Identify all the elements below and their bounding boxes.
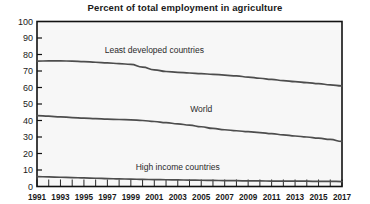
x-tick-label: 2007 xyxy=(216,193,235,202)
x-tick-label: 1995 xyxy=(75,193,94,202)
x-tick-label: 2017 xyxy=(333,193,352,202)
chart-figure: Percent of total employment in agricultu… xyxy=(0,0,370,204)
line-chart-plot: 0102030405060708090100 19911993199519971… xyxy=(0,0,370,204)
y-tick-label: 100 xyxy=(18,17,33,27)
x-tick-label: 1991 xyxy=(28,193,47,202)
y-tick-label: 60 xyxy=(23,83,33,93)
x-tick-label: 2001 xyxy=(145,193,164,202)
x-tick-label: 2011 xyxy=(263,193,281,202)
y-axis-labels: 0102030405060708090100 xyxy=(18,17,33,192)
x-tick-label: 2013 xyxy=(286,193,305,202)
x-tick-label: 1993 xyxy=(51,193,70,202)
series-label-0: Least developed countries xyxy=(105,45,204,55)
y-tick-label: 20 xyxy=(23,149,33,159)
y-tick-label: 10 xyxy=(23,165,33,175)
x-axis-labels: 1991199319951997199920012003200520072009… xyxy=(28,193,352,202)
series-label-2: High income countries xyxy=(136,162,220,172)
y-tick-label: 30 xyxy=(23,132,33,142)
y-tick-label: 70 xyxy=(23,66,33,76)
x-tick-label: 1999 xyxy=(122,193,141,202)
x-tick-label: 1997 xyxy=(98,193,117,202)
y-tick-label: 40 xyxy=(23,116,33,126)
y-tick-label: 50 xyxy=(23,99,33,109)
x-tick-label: 2005 xyxy=(192,193,211,202)
y-tick-label: 80 xyxy=(23,50,33,60)
x-tick-label: 2015 xyxy=(309,193,328,202)
x-tick-label: 2003 xyxy=(169,193,188,202)
y-tick-label: 0 xyxy=(28,182,33,192)
y-tick-label: 90 xyxy=(23,33,33,43)
x-tick-label: 2009 xyxy=(239,193,258,202)
series-label-1: World xyxy=(190,104,212,114)
